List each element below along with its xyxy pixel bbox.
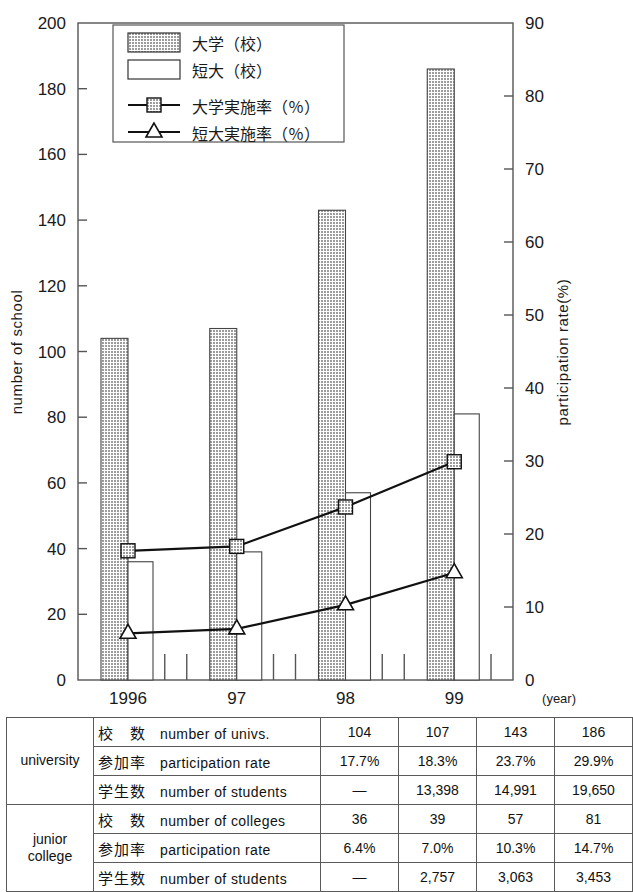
left-tick-label: 120	[38, 277, 66, 296]
legend-label: 大学（校）	[192, 35, 272, 54]
left-tick-label: 100	[38, 343, 66, 362]
table-cell: 107	[399, 718, 477, 747]
bar-junior-college	[237, 552, 262, 680]
statistics-table: university校 数number of univs.10410714318…	[6, 717, 633, 892]
data-table-container: university校 数number of univs.10410714318…	[6, 717, 579, 892]
university-rate-marker	[121, 544, 135, 558]
left-tick-label: 0	[57, 671, 66, 690]
right-tick-label: 80	[525, 87, 544, 106]
table-row-header: 校 数number of colleges	[94, 805, 321, 834]
x-tick-labels: 1996979899	[109, 689, 464, 708]
table-body: university校 数number of univs.10410714318…	[7, 718, 633, 892]
left-tick-label: 40	[47, 540, 66, 559]
right-tick-label: 20	[525, 525, 544, 544]
right-axis-title: participation rate(%)	[554, 279, 571, 426]
bar-junior-college	[346, 493, 371, 680]
bar-junior-college	[454, 414, 479, 680]
table-row: university校 数number of univs.10410714318…	[7, 718, 633, 747]
left-tick-label: 80	[47, 408, 66, 427]
legend-label: 大学実施率（％）	[192, 98, 320, 117]
table-cell: 19,650	[555, 776, 633, 805]
legend-swatch	[128, 33, 180, 52]
x-tick-label: 99	[445, 689, 464, 708]
left-tick-label: 20	[47, 605, 66, 624]
bar-university	[101, 338, 128, 680]
table-cell: 14,991	[477, 776, 555, 805]
table-cell: —	[321, 776, 399, 805]
row-label-jp: 校 数	[98, 722, 150, 743]
x-tick-label: 1996	[109, 689, 147, 708]
table-row-header: 学生数number of students	[94, 776, 321, 805]
right-tick-label: 90	[525, 14, 544, 33]
table-cell: 186	[555, 718, 633, 747]
university-rate-marker	[230, 539, 244, 553]
right-tick-label: 60	[525, 233, 544, 252]
table-row: 参加率participation rate17.7%18.3%23.7%29.9…	[7, 747, 633, 776]
row-label-jp: 学生数	[98, 867, 150, 888]
table-row: 学生数number of students—13,39814,99119,650	[7, 776, 633, 805]
row-label-en: number of students	[160, 784, 287, 800]
legend-label: 短大実施率（％）	[192, 125, 320, 144]
table-cell: 14.7%	[555, 834, 633, 863]
left-tick-label: 140	[38, 211, 66, 230]
bar-junior-college	[128, 562, 153, 680]
row-label-en: participation rate	[160, 755, 271, 771]
university-rate-marker	[339, 500, 353, 514]
table-cell: 3,063	[477, 863, 555, 892]
table-cell: 36	[321, 805, 399, 834]
left-tick-label: 60	[47, 474, 66, 493]
table-cell: 17.7%	[321, 747, 399, 776]
combo-chart-svg: 020406080100120140160180200 010203040506…	[0, 0, 585, 712]
right-tick-label: 50	[525, 306, 544, 325]
table-cell: 104	[321, 718, 399, 747]
x-tick-label: 97	[227, 689, 246, 708]
x-tick-label: 98	[336, 689, 355, 708]
table-row: juniorcollege校 数number of colleges363957…	[7, 805, 633, 834]
left-tick-label: 180	[38, 80, 66, 99]
row-label-jp: 参加率	[98, 751, 150, 772]
chart-figure: 020406080100120140160180200 010203040506…	[0, 0, 585, 712]
table-cell: 39	[399, 805, 477, 834]
table-cell: 18.3%	[399, 747, 477, 776]
right-tick-label: 40	[525, 379, 544, 398]
legend-marker	[147, 98, 161, 112]
table-cell: 13,398	[399, 776, 477, 805]
legend-label: 短大（校）	[192, 62, 272, 81]
table-cell: 57	[477, 805, 555, 834]
table-cell: 7.0%	[399, 834, 477, 863]
table-row-header: 学生数number of students	[94, 863, 321, 892]
right-tick-label: 30	[525, 452, 544, 471]
table-cell: 2,757	[399, 863, 477, 892]
bar-university	[427, 69, 454, 680]
legend-swatch	[128, 60, 180, 79]
left-tick-label: 200	[38, 14, 66, 33]
table-cell: 10.3%	[477, 834, 555, 863]
row-label-en: number of univs.	[160, 726, 270, 742]
row-label-jp: 学生数	[98, 780, 150, 801]
row-label-jp: 参加率	[98, 838, 150, 859]
table-row: 学生数number of students—2,7573,0633,453	[7, 863, 633, 892]
table-cell: 3,453	[555, 863, 633, 892]
table-cell: —	[321, 863, 399, 892]
chart-legend: 大学（校）短大（校）大学実施率（％）短大実施率（％）	[113, 25, 344, 144]
table-cell: 23.7%	[477, 747, 555, 776]
row-label-jp: 校 数	[98, 809, 150, 830]
right-tick-label: 0	[525, 671, 534, 690]
table-cell: 29.9%	[555, 747, 633, 776]
table-row-header: 校 数number of univs.	[94, 718, 321, 747]
x-axis-note: (year)	[542, 691, 576, 706]
table-cell: 6.4%	[321, 834, 399, 863]
right-tick-label: 70	[525, 160, 544, 179]
table-group-label: juniorcollege	[7, 805, 94, 892]
table-row: 参加率participation rate6.4%7.0%10.3%14.7%	[7, 834, 633, 863]
table-cell: 143	[477, 718, 555, 747]
table-row-header: 参加率participation rate	[94, 834, 321, 863]
table-row-header: 参加率participation rate	[94, 747, 321, 776]
left-tick-label: 160	[38, 145, 66, 164]
table-group-label: university	[7, 718, 94, 805]
right-tick-label: 10	[525, 598, 544, 617]
row-label-en: participation rate	[160, 842, 271, 858]
table-cell: 81	[555, 805, 633, 834]
university-rate-marker	[447, 455, 461, 469]
